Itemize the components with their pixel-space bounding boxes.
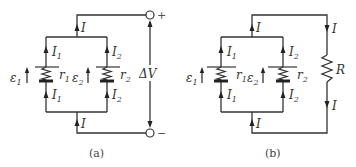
panel-b: I I I I R I1 I1 I2 I2 ε1 ε2 r1 r2 (b) xyxy=(186,15,345,160)
arrow-I-bottom-a xyxy=(75,119,80,126)
plus-sign: + xyxy=(157,9,166,22)
emf2-arrowhead-a xyxy=(86,67,90,73)
arrow-I-top-b xyxy=(250,24,255,31)
wire-bottom-a xyxy=(77,112,146,133)
label-emf1-a: ε1 xyxy=(10,71,22,87)
minus-sign: − xyxy=(157,127,166,140)
label-I2-bot-b: I2 xyxy=(288,88,299,104)
label-I-bottom-b: I xyxy=(255,117,261,131)
arrow-I1-bot-a xyxy=(44,91,49,98)
arrow-I1-top-a xyxy=(44,46,49,53)
arrow-I2-bot-a xyxy=(105,91,110,98)
label-I-right-bot-b: I xyxy=(331,99,337,113)
emf2-arrowhead-b xyxy=(261,67,265,73)
label-I-right-top-b: I xyxy=(331,22,337,36)
label-I1-top-b: I1 xyxy=(226,45,237,61)
label-r1-b: r1 xyxy=(236,68,247,84)
arrow-I1-bot-b xyxy=(219,91,224,98)
terminal-minus xyxy=(146,129,154,137)
arrow-I-bottom-b xyxy=(250,119,255,126)
arrow-I2-top-a xyxy=(105,46,110,53)
arrow-I-right-bot-b xyxy=(325,101,330,108)
caption-a: (a) xyxy=(89,147,104,160)
label-I-bottom-a: I xyxy=(80,117,86,131)
label-emf1-b: ε1 xyxy=(186,71,198,87)
arrow-I1-top-b xyxy=(219,46,224,53)
label-I1-bot-b: I1 xyxy=(226,88,237,104)
panel-a: + − ΔV I I I1 I1 I2 I2 ε1 ε2 r1 r2 (a) xyxy=(10,9,166,160)
label-I-top-b: I xyxy=(255,21,261,35)
battery-1-a xyxy=(35,67,59,81)
resistor-R xyxy=(322,55,332,82)
battery-2-b xyxy=(268,67,297,81)
delta-v-label: ΔV xyxy=(138,67,158,81)
label-I1-top-a: I1 xyxy=(51,45,62,61)
arrow-I-right-top-b xyxy=(325,25,330,32)
terminal-plus xyxy=(146,11,154,19)
circuit-diagrams: + − ΔV I I I1 I1 I2 I2 ε1 ε2 r1 r2 (a) xyxy=(0,0,356,167)
arrow-down-icon xyxy=(148,121,153,128)
arrow-I2-top-b xyxy=(281,46,286,53)
label-r1-a: r1 xyxy=(59,68,70,84)
label-emf2-a: ε2 xyxy=(72,71,84,87)
label-r2-a: r2 xyxy=(120,68,131,84)
label-I2-top-a: I2 xyxy=(111,45,122,61)
label-I2-bot-a: I2 xyxy=(111,88,122,104)
arrow-I2-bot-b xyxy=(281,91,286,98)
label-I1-bot-a: I1 xyxy=(51,88,62,104)
label-R: R xyxy=(335,63,345,77)
label-I-top-a: I xyxy=(80,21,86,35)
label-I2-top-b: I2 xyxy=(288,45,299,61)
caption-b: (b) xyxy=(265,147,281,160)
emf1-arrowhead-a xyxy=(25,67,29,73)
arrow-I-top-a xyxy=(75,24,80,31)
wire-top-a xyxy=(77,15,146,37)
arrow-up-icon xyxy=(148,20,153,27)
battery-1-b xyxy=(207,67,236,81)
label-r2-b: r2 xyxy=(297,68,308,84)
emf1-arrowhead-b xyxy=(200,67,204,73)
label-emf2-b: ε2 xyxy=(247,71,259,87)
battery-2-a xyxy=(96,67,120,81)
